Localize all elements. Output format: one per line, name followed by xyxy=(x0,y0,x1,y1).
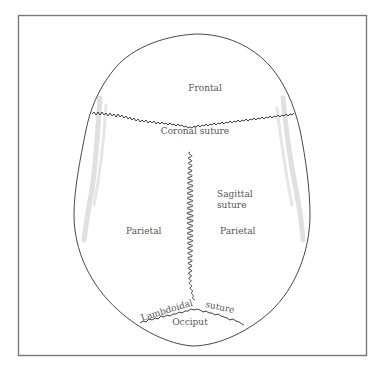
skull-side-shading xyxy=(84,98,303,240)
label-parietal-left: Parietal xyxy=(126,226,162,236)
sagittal-suture xyxy=(187,152,195,300)
skull-suture-diagram: Frontal Coronal suture Sagittal suture P… xyxy=(0,0,382,372)
label-occiput: Occiput xyxy=(172,317,208,327)
label-sagittal-line2: suture xyxy=(217,200,246,210)
label-sagittal-line1: Sagittal xyxy=(217,189,253,199)
label-frontal: Frontal xyxy=(188,83,222,93)
label-parietal-right: Parietal xyxy=(220,226,256,236)
label-coronal-suture: Coronal suture xyxy=(161,126,229,136)
